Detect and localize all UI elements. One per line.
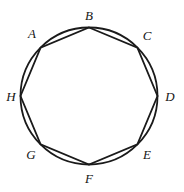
vertex-label-H: H (6, 90, 15, 103)
vertex-label-G: G (26, 148, 35, 161)
vertex-label-C: C (143, 29, 152, 42)
vertex-label-B: B (85, 9, 93, 22)
vertex-label-D: D (165, 90, 174, 103)
inscribed-octagon (21, 28, 158, 165)
vertex-label-E: E (143, 148, 151, 161)
vertex-label-A: A (28, 27, 36, 40)
vertex-label-F: F (85, 172, 93, 185)
geometry-figure: B C D E F G H A (0, 0, 184, 192)
